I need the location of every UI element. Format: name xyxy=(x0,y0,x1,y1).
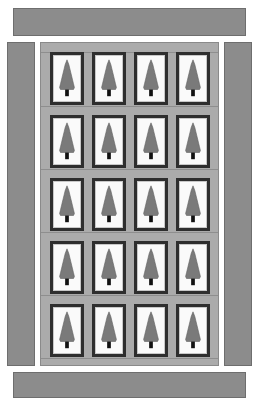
tree-block-background xyxy=(95,55,123,102)
tree-block xyxy=(176,241,210,294)
tree-block-background xyxy=(137,244,165,291)
center-quilt-panel xyxy=(40,42,219,366)
tree-block xyxy=(92,115,126,168)
tree-block xyxy=(50,115,84,168)
pine-tree-icon xyxy=(96,308,122,353)
pine-tree-icon xyxy=(180,56,206,101)
tree-block xyxy=(134,115,168,168)
tree-block xyxy=(176,304,210,357)
pine-tree-icon xyxy=(96,245,122,290)
pine-tree-icon xyxy=(138,56,164,101)
tree-block-background xyxy=(179,244,207,291)
tree-block xyxy=(92,52,126,105)
tree-block-background xyxy=(179,307,207,354)
pine-tree-icon xyxy=(96,56,122,101)
pine-tree-icon xyxy=(54,308,80,353)
tree-block-background xyxy=(53,55,81,102)
pine-tree-icon xyxy=(96,119,122,164)
tree-block-background xyxy=(137,181,165,228)
tree-block xyxy=(176,52,210,105)
tree-block-background xyxy=(95,307,123,354)
pine-tree-icon xyxy=(54,56,80,101)
tree-block-background xyxy=(179,181,207,228)
pine-tree-icon xyxy=(138,119,164,164)
tree-block xyxy=(134,178,168,231)
pine-tree-icon xyxy=(180,182,206,227)
tree-block xyxy=(92,241,126,294)
pine-tree-icon xyxy=(180,119,206,164)
tree-block-background xyxy=(137,55,165,102)
pine-tree-icon xyxy=(54,182,80,227)
lattice-line xyxy=(41,358,218,359)
tree-block xyxy=(50,241,84,294)
pine-tree-icon xyxy=(138,308,164,353)
tree-block xyxy=(50,178,84,231)
right-border-strip xyxy=(224,42,252,366)
lattice-line xyxy=(41,232,218,233)
tree-block-background xyxy=(179,118,207,165)
tree-block xyxy=(176,115,210,168)
tree-block xyxy=(134,241,168,294)
tree-block xyxy=(92,304,126,357)
tree-block xyxy=(50,52,84,105)
tree-block xyxy=(134,52,168,105)
tree-block xyxy=(134,304,168,357)
tree-block-background xyxy=(53,118,81,165)
lattice-line xyxy=(41,106,218,107)
tree-block-background xyxy=(137,118,165,165)
pine-tree-icon xyxy=(180,308,206,353)
pine-tree-icon xyxy=(138,182,164,227)
tree-block-background xyxy=(179,55,207,102)
pine-tree-icon xyxy=(54,245,80,290)
pine-tree-icon xyxy=(54,119,80,164)
tree-block xyxy=(92,178,126,231)
pine-tree-icon xyxy=(96,182,122,227)
tree-block-background xyxy=(95,181,123,228)
bottom-border-strip xyxy=(13,372,246,398)
tree-block-background xyxy=(53,307,81,354)
pine-tree-icon xyxy=(180,245,206,290)
tree-block xyxy=(50,304,84,357)
top-border-strip xyxy=(13,8,246,36)
tree-block-background xyxy=(53,181,81,228)
tree-block-background xyxy=(95,244,123,291)
tree-block-background xyxy=(95,118,123,165)
tree-block xyxy=(176,178,210,231)
lattice-line xyxy=(41,295,218,296)
tree-block-background xyxy=(137,307,165,354)
lattice-line xyxy=(41,169,218,170)
tree-block-background xyxy=(53,244,81,291)
pine-tree-icon xyxy=(138,245,164,290)
left-border-strip xyxy=(7,42,35,366)
